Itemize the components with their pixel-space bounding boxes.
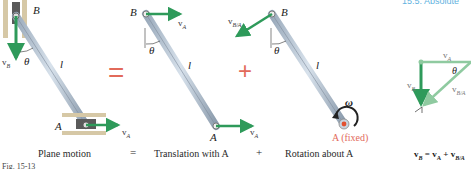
label-l: l — [60, 58, 63, 70]
caption-translation: Translation with A — [154, 148, 229, 159]
vertical-guide-left — [3, 0, 8, 38]
figure-label: Fig. 15-13 — [2, 162, 35, 169]
panel-rotation — [237, 11, 358, 129]
label-B: B — [130, 6, 137, 18]
label-B: B — [281, 6, 288, 18]
plus-operator-large: + — [238, 59, 252, 83]
label-theta: θ — [274, 44, 279, 56]
label-A-fixed: A (fixed) — [332, 132, 368, 143]
label-vA-top: vA — [178, 18, 186, 30]
caption-rotation: Rotation about A — [285, 148, 353, 159]
equals-operator-large: = — [108, 59, 124, 87]
label-theta: θ — [24, 55, 29, 67]
theta-arc — [20, 48, 33, 52]
label-vB: vB — [407, 80, 415, 92]
label-vBA: vB/A — [452, 84, 466, 96]
label-theta: θ — [452, 65, 457, 76]
label-omega: ω — [345, 96, 353, 108]
label-vA-bottom: vA — [250, 127, 258, 139]
label-l: l — [188, 59, 191, 71]
horizontal-guide-top — [62, 113, 106, 117]
caption-plane-motion: Plane motion — [38, 148, 91, 159]
label-l: l — [316, 59, 319, 71]
label-B: B — [33, 4, 40, 16]
vector-origin — [419, 60, 424, 65]
label-theta: θ — [149, 44, 154, 56]
fixed-pivot-dot — [342, 122, 347, 127]
horizontal-guide-bottom — [62, 131, 106, 135]
label-A: A — [55, 120, 62, 132]
label-vA: vA — [443, 50, 451, 62]
tip-mark — [415, 107, 422, 113]
equals-operator-small: = — [130, 146, 136, 158]
velocity-equation: vB = vA + vB/A — [414, 149, 465, 161]
label-vB: vB — [2, 57, 10, 69]
label-vBA: vB/A — [228, 16, 242, 28]
arrow-vBA — [237, 14, 272, 36]
panel-translation — [143, 11, 252, 129]
label-vA: vA — [122, 127, 130, 139]
plus-operator-small: + — [256, 146, 262, 158]
label-A: A — [210, 131, 217, 143]
